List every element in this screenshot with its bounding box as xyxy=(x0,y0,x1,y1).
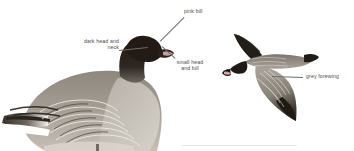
annotation-label-grey-forewing: grey forewing xyxy=(306,73,354,79)
annotation-label-dark-head-and-neck: dark head and neck xyxy=(62,38,119,50)
annotation-label-small-head-and-bill: small head and bill xyxy=(168,59,212,71)
illustration-plate: pink bill dark head and neck small head … xyxy=(0,0,354,151)
bottom-divider xyxy=(182,145,297,146)
annotation-label-pink-bill: pink bill xyxy=(184,8,224,14)
